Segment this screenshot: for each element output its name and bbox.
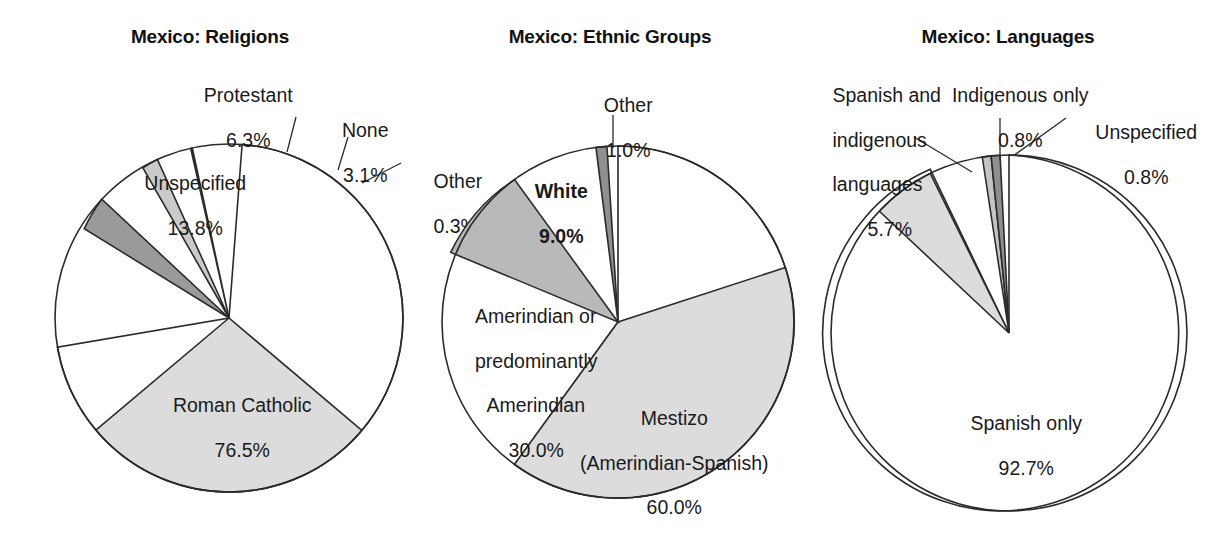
label-roman-catholic: Roman Catholic 76.5% [116,372,336,483]
label-spanish-and-indigenous: Spanish and indigenous languages 5.7% [800,62,912,262]
label-white: White 9.0% [480,158,610,269]
chart-ethnic-groups: Mexico: Ethnic Groups Other 1.0% [400,0,820,558]
label-mestizo: Mestizo (Amerindian-Spanish) 60.0% [533,385,783,541]
label-spanish-only: Spanish only 92.7% [910,390,1110,501]
pie-chart-figure: Mexico: Religions [0,0,1216,558]
chart-languages: Mexico: Languages Spanish and [800,0,1216,558]
label-unspecified: Unspecified 0.8% [1050,99,1210,210]
label-unspecified: Unspecified 13.8% [99,150,259,261]
label-none: None 3.1% [294,97,404,208]
chart-religions: Mexico: Religions [0,0,420,558]
